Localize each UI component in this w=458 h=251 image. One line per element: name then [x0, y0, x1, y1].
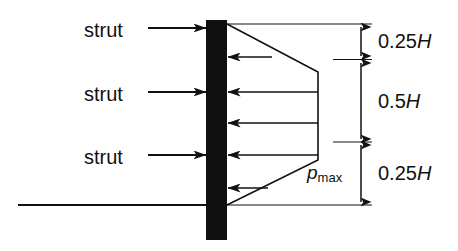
pmax-label: pmax	[307, 163, 342, 182]
dimension-unit-top: H	[417, 30, 431, 52]
dimension-label-bottom: 0.25H	[378, 163, 431, 183]
dimension-unit-middle: H	[406, 90, 420, 112]
dimension-label-middle: 0.5H	[378, 91, 420, 111]
dimension-value-top: 0.25	[378, 30, 417, 52]
pressure-trapezoid-outline	[227, 24, 318, 205]
dimension-value-middle: 0.5	[378, 90, 406, 112]
retaining-wall	[206, 20, 227, 240]
dimension-unit-bottom: H	[417, 162, 431, 184]
strut-label-3: strut	[84, 147, 123, 167]
dimension-value-bottom: 0.25	[378, 162, 417, 184]
dimension-label-top: 0.25H	[378, 31, 431, 51]
strut-label-2: strut	[84, 84, 123, 104]
pmax-variable: p	[307, 162, 318, 183]
strut-label-1: strut	[84, 20, 123, 40]
pmax-subscript: max	[318, 170, 343, 185]
pressure-diagram-figure: strut strut strut pmax 0.25H 0.5H 0.25H	[0, 0, 458, 251]
